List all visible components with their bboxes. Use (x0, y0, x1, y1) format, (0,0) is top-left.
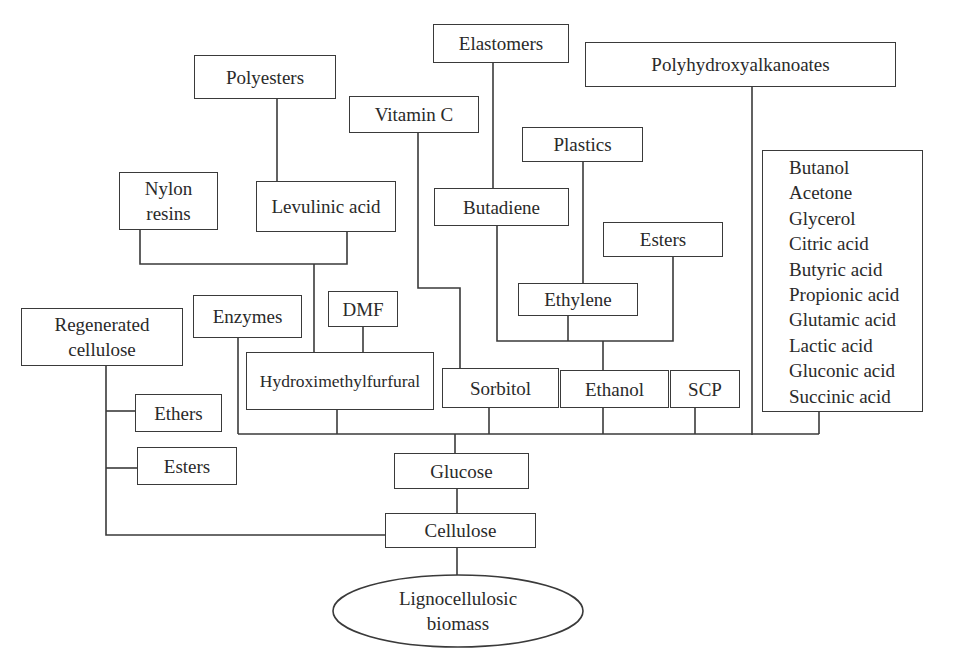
product-item: Butyric acid (789, 257, 882, 282)
biomass-conversion-diagram: Elastomers Polyhydroxyalkanoates Polyest… (0, 0, 956, 672)
product-item: Gluconic acid (789, 358, 895, 383)
node-dmf: DMF (328, 291, 398, 327)
node-regenerated-cellulose: Regenerated cellulose (21, 308, 183, 366)
node-polyhydroxyalkanoates: Polyhydroxyalkanoates (585, 42, 896, 87)
node-label: SCP (688, 377, 722, 402)
node-enzymes: Enzymes (193, 295, 302, 338)
node-label: Sorbitol (470, 376, 531, 401)
node-butadiene: Butadiene (434, 188, 569, 226)
node-label: Plastics (553, 132, 611, 157)
node-nylon-resins: Nylon resins (119, 172, 218, 230)
product-item: Lactic acid (789, 333, 873, 358)
node-ethylene: Ethylene (518, 283, 638, 316)
node-label: Ethylene (544, 287, 612, 312)
node-sorbitol: Sorbitol (442, 368, 559, 408)
product-list-box: Butanol Acetone Glycerol Citric acid But… (762, 150, 923, 412)
node-label: Levulinic acid (271, 194, 380, 219)
node-scp: SCP (670, 370, 740, 408)
node-lignocellulosic-biomass: Lignocellulosic biomass (335, 586, 581, 636)
node-cellulose: Cellulose (385, 513, 536, 548)
node-label: Cellulose (425, 518, 497, 543)
node-elastomers: Elastomers (433, 24, 569, 63)
node-label-line-2: biomass (335, 611, 581, 636)
node-label-line-1: Nylon (145, 176, 193, 201)
product-item: Glutamic acid (789, 307, 896, 332)
node-label: Butadiene (463, 195, 540, 220)
node-label: Polyesters (226, 65, 304, 90)
node-esters-left: Esters (137, 447, 237, 485)
node-label: Esters (164, 454, 210, 479)
node-label-line-1: Lignocellulosic (335, 586, 581, 611)
node-label: Enzymes (213, 304, 283, 329)
node-label: DMF (342, 297, 383, 322)
node-label: Vitamin C (375, 102, 454, 127)
node-label: Elastomers (459, 31, 543, 56)
product-item: Succinic acid (789, 384, 891, 409)
node-vitamin-c: Vitamin C (349, 96, 479, 133)
node-ethers: Ethers (135, 394, 222, 432)
product-item: Butanol (789, 155, 849, 180)
product-item: Propionic acid (789, 282, 899, 307)
node-label-line-1: Regenerated (55, 312, 150, 337)
product-item: Acetone (789, 180, 852, 205)
node-glucose: Glucose (394, 453, 529, 489)
node-esters-right: Esters (603, 222, 723, 257)
node-label: Glucose (430, 459, 492, 484)
product-item: Glycerol (789, 206, 855, 231)
product-item: Citric acid (789, 231, 869, 256)
node-label: Polyhydroxyalkanoates (651, 52, 829, 77)
node-label: Hydroximethylfurfural (260, 369, 420, 394)
node-label-line-2: resins (146, 201, 190, 226)
node-label: Esters (640, 227, 686, 252)
node-label: Ethers (154, 401, 203, 426)
node-polyesters: Polyesters (194, 55, 336, 99)
node-ethanol: Ethanol (560, 370, 669, 408)
node-levulinic-acid: Levulinic acid (256, 181, 396, 232)
node-label: Ethanol (585, 377, 644, 402)
node-label-line-2: cellulose (68, 337, 136, 362)
node-hydroxymethylfurfural: Hydroximethylfurfural (246, 352, 434, 410)
node-plastics: Plastics (522, 127, 643, 162)
